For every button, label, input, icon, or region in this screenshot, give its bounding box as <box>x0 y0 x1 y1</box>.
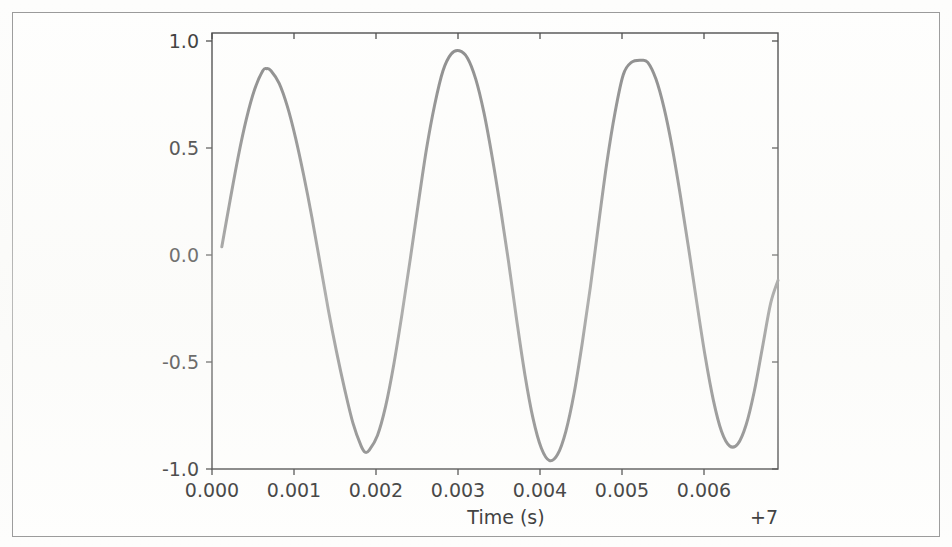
signal-curve <box>222 51 778 461</box>
x-tick-label: 0.003 <box>431 479 485 501</box>
x-tick-label: 0.001 <box>267 479 321 501</box>
x-tick-label: 0.006 <box>677 479 731 501</box>
x-tick-label: 0.002 <box>349 479 403 501</box>
x-tick-label: 0.005 <box>595 479 649 501</box>
y-tick-label: 0.0 <box>169 244 199 266</box>
sine-wave-plot: 1.0 0.5 0.0 -0.5 -1.0 0.000 0.001 0.002 … <box>0 0 952 547</box>
x-tick-label: 0.004 <box>513 479 567 501</box>
y-tickmarks <box>206 41 778 469</box>
y-tick-label: 1.0 <box>169 30 199 52</box>
x-axis-offset-label: +7 <box>750 506 778 528</box>
x-axis-title: Time (s) <box>466 506 544 528</box>
y-tick-label: -0.5 <box>162 351 199 373</box>
plot-axes-box <box>212 33 778 469</box>
figure-page: 1.0 0.5 0.0 -0.5 -1.0 0.000 0.001 0.002 … <box>0 0 952 547</box>
x-tick-label: 0.000 <box>185 479 239 501</box>
y-tick-label: 0.5 <box>169 137 199 159</box>
y-tick-label: -1.0 <box>162 458 199 480</box>
